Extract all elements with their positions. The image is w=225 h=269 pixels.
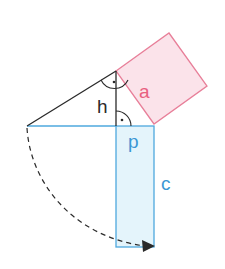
label-c: c <box>161 173 171 194</box>
label-a: a <box>139 81 150 102</box>
right-angle-dot-top <box>113 81 116 84</box>
right-angle-arc-foot <box>116 111 131 126</box>
square-a <box>116 33 207 124</box>
leg-theorem-diagram: a h p c <box>0 0 225 269</box>
label-h: h <box>97 96 108 117</box>
label-p: p <box>128 131 139 152</box>
right-angle-dot-foot <box>121 119 124 122</box>
